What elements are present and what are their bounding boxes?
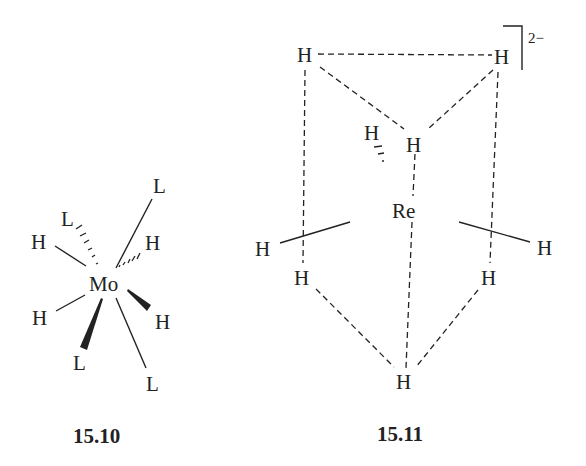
atom-l-top-left: L: [61, 207, 74, 231]
structure-15-11: 2− Re H H H H H H H H H 15.11: [255, 26, 552, 446]
bond-mo-l-lower-right: [116, 298, 146, 368]
structure-label-15-10: 15.10: [73, 424, 120, 448]
charge-label: 2−: [528, 30, 544, 46]
atom-h-lower-left: H: [32, 306, 47, 330]
edge-re-bottom: [406, 222, 412, 368]
atom-re: Re: [392, 199, 415, 223]
edge-top-right-lower-right: [490, 72, 498, 263]
atom-h-lower-right: H: [481, 266, 496, 290]
atom-h-upper-right: H: [145, 231, 160, 255]
structure-15-10: Mo L L H H H H L L 15.10: [31, 174, 170, 448]
edge-top-left-top-right: [318, 54, 492, 55]
bond-mo-h-upper-left: [55, 246, 86, 266]
atom-mo: Mo: [89, 272, 118, 296]
bond-re-h-left: [280, 222, 350, 243]
atom-h-back: H: [364, 121, 379, 145]
bond-re-h-right: [459, 222, 530, 242]
edge-top-left-inner: [320, 67, 404, 129]
atom-h-right: H: [537, 236, 552, 260]
edge-top-left-lower-left: [303, 70, 305, 263]
edge-lower-right-bottom: [416, 290, 478, 367]
atom-h-upper-left: H: [31, 230, 46, 254]
edge-lower-left-bottom: [316, 289, 394, 367]
hashed-bond-re-h-back: [374, 146, 384, 161]
atom-l-lower-right: L: [146, 372, 159, 396]
edge-inner-re: [413, 154, 415, 196]
wedge-bond-mo-h-lower-right: [127, 289, 151, 311]
wedge-bond-mo-l-lower-left: [80, 298, 103, 350]
figure-canvas: Mo L L H H H H L L 15.10 2−: [0, 0, 586, 466]
atom-h-left: H: [255, 237, 270, 261]
atom-l-lower-left: L: [73, 351, 86, 375]
hashed-bond-mo-l-upper-left: [76, 225, 98, 264]
atom-l-top-right: L: [153, 174, 166, 198]
atom-h-top-right: H: [494, 45, 509, 69]
atom-h-top-left: H: [297, 43, 312, 67]
atom-h-inner: H: [406, 133, 421, 157]
bond-mo-h-lower-left: [56, 295, 85, 311]
atom-h-lower-left: H: [294, 266, 309, 290]
structure-label-15-11: 15.11: [377, 422, 423, 446]
atom-h-bottom: H: [396, 370, 411, 394]
atom-h-lower-right: H: [155, 310, 170, 334]
edge-top-right-inner: [428, 70, 493, 129]
